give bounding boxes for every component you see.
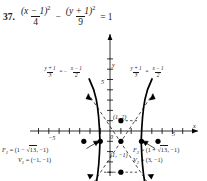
asymptote-left-lhs-denominator: 3 — [47, 72, 54, 79]
asymptote-left-equals: = — [60, 68, 63, 74]
asymptote-right-rhs-denominator: 2 — [155, 72, 162, 79]
equation-right-hand-side: 1 — [108, 12, 113, 22]
vertex-right-coordinates: = (3, −1) — [141, 156, 163, 163]
focus-right — [155, 139, 160, 144]
hyperbola-graph: y + 1 3 = − x − 1 2 y + 1 3 = x − 1 2 (1… — [0, 30, 207, 181]
equation-equals-sign: = — [98, 12, 107, 22]
x-axis-tick-label-5: 5 — [172, 130, 175, 137]
focus-left-subscript: 1 — [6, 150, 8, 155]
focus-label-left: F1 = (1 − √13, −1) — [2, 146, 48, 153]
hyperbola-right-branch — [141, 79, 152, 181]
vertex-right-subscript: 2 — [137, 160, 139, 165]
point-label-1-2: (1, 2) — [113, 113, 126, 120]
point-label-center: (1, −1) — [110, 151, 128, 158]
x-axis-label: x — [193, 122, 196, 129]
focus-label-right: F2 = (1 + √13, −1) — [133, 146, 179, 153]
x-axis-arrowhead — [192, 129, 198, 134]
term2-numerator-exponent: 2 — [92, 4, 95, 11]
focus-right-suffix: , −1) — [168, 146, 180, 153]
asymptote-right-lhs-denominator: 3 — [133, 72, 140, 79]
vertex-left-coordinates: = (−1, −1) — [26, 156, 51, 163]
focus-left-prefix: = (1 − — [10, 146, 27, 153]
asymptote-left-sign: − — [64, 68, 67, 74]
term2-numerator-base: (y + 1) — [66, 6, 92, 16]
focus-right-radicand: 13 — [160, 145, 167, 153]
term2-denominator: 9 — [76, 16, 85, 27]
vertex-label-left: V1 = (−1, −1) — [18, 156, 51, 163]
focus-left — [81, 139, 86, 144]
problem-header: 37. (x − 1)2 4 − (y + 1)2 9 = 1 — [3, 6, 112, 28]
equation: (x − 1)2 4 − (y + 1)2 9 = 1 — [18, 6, 113, 28]
origin-label: 0 — [110, 133, 113, 140]
y-axis-tick-label-5: 5 — [101, 78, 104, 85]
asymptote-label-positive-slope: y + 1 3 = x − 1 2 — [128, 66, 166, 78]
asymptote-right-equals: = — [146, 68, 149, 74]
vertex-label-right: V2 = (3, −1) — [133, 156, 163, 163]
focus-left-radicand: 13 — [29, 145, 36, 153]
term1-denominator: 4 — [31, 16, 40, 27]
focus-right-prefix: = (1 + — [141, 146, 158, 153]
y-axis-arrowhead — [108, 34, 113, 40]
equation-term-1: (x − 1)2 4 — [19, 6, 53, 28]
focus-left-suffix: , −1) — [37, 146, 49, 153]
hyperbola-left-branch — [89, 79, 100, 181]
y-axis-label: y — [112, 61, 115, 68]
term1-numerator-exponent: 2 — [47, 4, 50, 11]
x-axis-tick-label-neg5: −5 — [48, 134, 55, 141]
term1-numerator-base: (x − 1) — [21, 6, 47, 16]
asymptote-left-rhs-denominator: 2 — [73, 72, 80, 79]
point-center — [118, 139, 123, 144]
asymptote-label-negative-slope: y + 1 3 = − x − 1 2 — [42, 66, 84, 78]
equation-term-2: (y + 1)2 9 — [64, 6, 98, 28]
problem-number: 37. — [3, 6, 18, 23]
vertex-left-subscript: 1 — [22, 160, 24, 165]
focus-right-subscript: 2 — [137, 150, 139, 155]
equation-operator: − — [53, 12, 62, 22]
